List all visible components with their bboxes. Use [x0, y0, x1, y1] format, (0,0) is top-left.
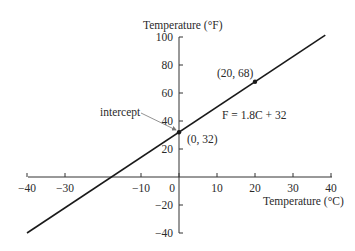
temperature-conversion-chart: −40−30−10010203040 10080604020−20−40 Tem…	[0, 0, 355, 251]
x-tick-label: 10	[211, 182, 223, 194]
intercept-point	[177, 130, 181, 134]
x-tick-label: −30	[56, 182, 74, 194]
y-tick-label: 60	[162, 87, 174, 99]
y-axis-title: Temperature (°F)	[143, 19, 223, 32]
x-tick-label: −10	[132, 182, 150, 194]
y-tick-label: 40	[162, 115, 174, 127]
x-axis-title: Temperature (°C)	[263, 195, 344, 208]
intercept-label: intercept	[100, 106, 141, 119]
x-tick-label: −40	[18, 182, 36, 194]
equation-label: F = 1.8C + 32	[222, 109, 287, 121]
x-tick-label: 0	[169, 182, 175, 194]
point-intercept-label: (0, 32)	[187, 133, 218, 146]
point-20-68-label: (20, 68)	[217, 67, 254, 80]
y-tick-label: −40	[155, 227, 173, 239]
y-tick-label: 100	[156, 31, 174, 43]
x-tick-label: 40	[325, 182, 337, 194]
y-tick-label: 20	[162, 143, 174, 155]
point-20-68	[253, 80, 257, 84]
x-tick-label: 20	[249, 182, 261, 194]
x-axis-ticks: −40−30−10010203040	[18, 173, 337, 194]
y-tick-label: 80	[162, 59, 174, 71]
y-tick-label: −20	[155, 199, 173, 211]
x-tick-label: 30	[287, 182, 299, 194]
